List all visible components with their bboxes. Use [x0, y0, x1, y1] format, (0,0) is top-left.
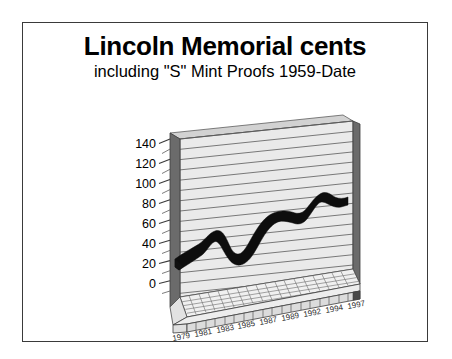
page-subtitle: including "S" Mint Proofs 1959-Date [23, 62, 427, 82]
x-tick-label-1992: 1992 [303, 307, 323, 319]
back-wall-face [180, 121, 353, 297]
y-tick-label-100: 100 [135, 177, 156, 191]
y-tick-label-80: 80 [142, 197, 156, 211]
chart-canvas: 140 120 100 80 60 40 20 0 1979 1981 1983 [23, 101, 429, 341]
floor-front-edge-right-cap [353, 291, 360, 300]
page-title: Lincoln Memorial cents [23, 33, 427, 60]
slide-frame: Lincoln Memorial cents including "S" Min… [22, 22, 428, 342]
x-tick-label-1987: 1987 [259, 315, 279, 327]
y-tick-label-0: 0 [149, 277, 156, 291]
y-tick-label-120: 120 [135, 157, 156, 171]
x-tick-label-1997: 1997 [347, 299, 367, 311]
x-tick-label-1994: 1994 [325, 303, 345, 315]
x-tick-label-1983: 1983 [216, 323, 236, 335]
x-tick-label-1985: 1985 [237, 319, 257, 331]
x-tick-label-1981: 1981 [194, 327, 214, 339]
right-side-wall [353, 121, 360, 284]
y-tick-label-140: 140 [135, 137, 156, 151]
left-side-wall [170, 133, 180, 307]
y-axis-labels: 140 120 100 80 60 40 20 0 [135, 137, 156, 291]
y-tick-label-60: 60 [142, 217, 156, 231]
y-tick-label-40: 40 [142, 237, 156, 251]
x-tick-label-1989: 1989 [281, 311, 301, 323]
title-block: Lincoln Memorial cents including "S" Min… [23, 33, 427, 82]
y-axis-ticks [159, 139, 170, 284]
y-tick-label-20: 20 [142, 257, 156, 271]
chart-3d-line-chart: 140 120 100 80 60 40 20 0 1979 1981 1983 [23, 101, 429, 341]
